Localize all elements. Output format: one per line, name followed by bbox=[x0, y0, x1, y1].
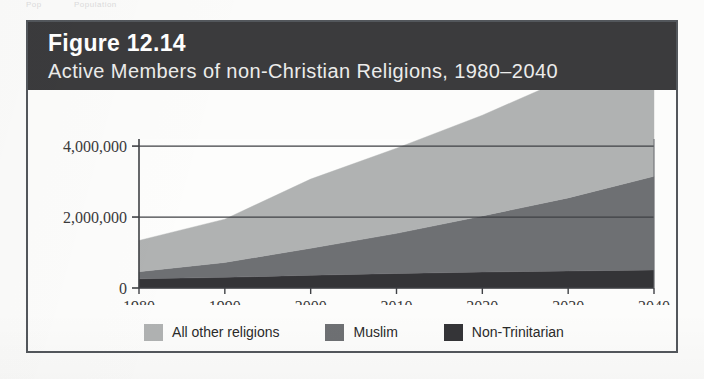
x-axis-tick-label: 1990 bbox=[209, 298, 241, 305]
legend-swatch bbox=[444, 324, 463, 341]
legend-swatch bbox=[325, 324, 344, 341]
figure-title: Active Members of non-Christian Religion… bbox=[48, 57, 676, 85]
figure-box: Figure 12.14 Active Members of non-Chris… bbox=[26, 20, 678, 353]
legend-item: Non-Trinitarian bbox=[444, 324, 564, 341]
chart-legend: All other religionsMuslimNon-Trinitarian bbox=[28, 319, 680, 345]
x-axis-tick-label: 2030 bbox=[552, 298, 584, 305]
plot-area: 02,000,0004,000,000198019902000201020202… bbox=[28, 90, 680, 305]
stacked-area-chart: 02,000,0004,000,000198019902000201020202… bbox=[28, 90, 680, 305]
chart-region: 02,000,0004,000,000198019902000201020202… bbox=[28, 90, 676, 355]
y-axis-tick-label: 2,000,000 bbox=[63, 209, 127, 226]
legend-item: All other religions bbox=[144, 324, 279, 341]
legend-label: Muslim bbox=[353, 324, 397, 340]
x-axis-tick-label: 1980 bbox=[123, 298, 155, 305]
page-running-head: Pop Population bbox=[0, 0, 704, 14]
x-axis-tick-label: 2020 bbox=[466, 298, 498, 305]
x-axis-tick-label: 2010 bbox=[381, 298, 413, 305]
x-axis-tick-label: 2040 bbox=[638, 298, 670, 305]
legend-item: Muslim bbox=[325, 324, 397, 341]
legend-label: Non-Trinitarian bbox=[472, 324, 564, 340]
legend-label: All other religions bbox=[172, 324, 279, 340]
running-head-right: Population bbox=[74, 0, 117, 9]
y-axis-tick-label: 0 bbox=[119, 280, 127, 297]
running-head-left: Pop bbox=[26, 0, 42, 9]
y-axis-tick-label: 4,000,000 bbox=[63, 138, 127, 155]
x-axis-tick-label: 2000 bbox=[295, 298, 327, 305]
figure-title-bar: Figure 12.14 Active Members of non-Chris… bbox=[28, 22, 676, 90]
figure-number: Figure 12.14 bbox=[48, 29, 676, 57]
legend-swatch bbox=[144, 324, 163, 341]
